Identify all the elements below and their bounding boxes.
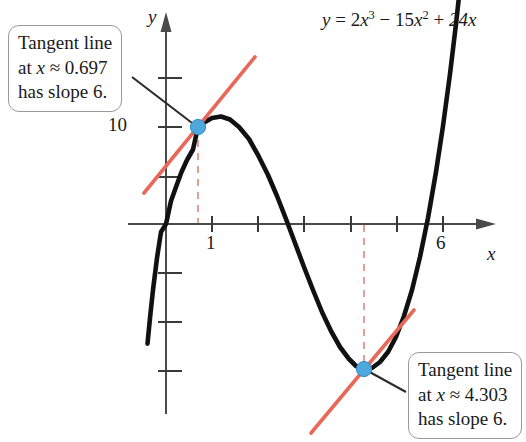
callout-2-line-2-post: ≈ 4.303 xyxy=(445,384,508,405)
callout-2-line-2: at x ≈ 4.303 xyxy=(418,383,512,408)
equation-term1-var: x xyxy=(360,9,368,30)
callout-2-line-2-var: x xyxy=(436,384,444,405)
callout-1-line-1: Tangent line xyxy=(18,31,112,56)
callout-1-line-2-pre: at xyxy=(18,57,36,78)
x-axis-arrowhead xyxy=(476,219,496,230)
leader-line-1 xyxy=(132,77,196,126)
callout-1-line-2: at x ≈ 0.697 xyxy=(18,56,112,81)
equation-term2-exp: 2 xyxy=(423,8,429,22)
equation-term2-coef: 15 xyxy=(395,9,414,30)
callout-2-line-2-pre: at xyxy=(418,384,436,405)
callout-2-line-3: has slope 6. xyxy=(418,407,512,432)
callout-1-line-2-post: ≈ 0.697 xyxy=(45,57,108,78)
equation-op2: + xyxy=(434,9,445,30)
callout-2-line-1: Tangent line xyxy=(418,358,512,383)
callout-tangent-2: Tangent line at x ≈ 4.303 has slope 6. xyxy=(408,352,522,439)
x-tick-label-1: 1 xyxy=(206,232,216,254)
callout-1-line-3: has slope 6. xyxy=(18,80,112,105)
x-tick-label-6: 6 xyxy=(436,232,446,254)
equation-term3: 24x xyxy=(449,9,476,30)
equation-term1-coef: 2 xyxy=(351,9,361,30)
equation-op1: − xyxy=(380,9,391,30)
equation-label: y = 2x3 − 15x2 + 24x xyxy=(322,8,476,31)
callout-tangent-1: Tangent line at x ≈ 0.697 has slope 6. xyxy=(8,25,122,112)
tangent-point-1-marker xyxy=(190,119,205,134)
callout-1-line-2-var: x xyxy=(36,57,44,78)
equation-lhs: y xyxy=(322,9,330,30)
y-tick-label-10: 10 xyxy=(108,114,127,136)
tangent-point-2-marker xyxy=(356,361,371,376)
y-axis-label: y xyxy=(148,6,156,28)
x-axis-label: x xyxy=(487,243,495,265)
leader-line-2 xyxy=(366,370,406,392)
equation-term2-var: x xyxy=(414,9,422,30)
equation-equals: = xyxy=(335,9,346,30)
equation-term1-exp: 3 xyxy=(369,8,375,22)
y-axis-arrowhead xyxy=(161,12,172,32)
